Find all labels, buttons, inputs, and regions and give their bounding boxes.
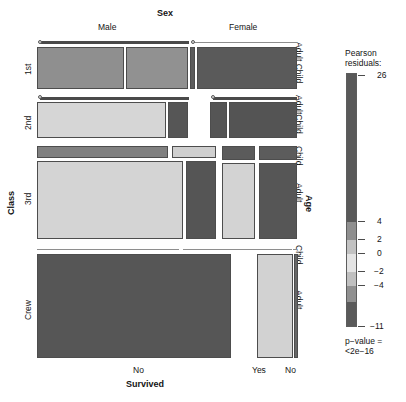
tile-1st-female-adult-yes bbox=[197, 47, 297, 89]
legend-value-26: 26 bbox=[377, 71, 386, 80]
tile-3rd-male-adult-yes bbox=[186, 161, 216, 239]
legend-value-minus4: −4 bbox=[374, 281, 384, 290]
pvalue-line1: p−value = bbox=[345, 336, 382, 346]
tile-crew-male-adult-no bbox=[37, 254, 231, 358]
spine-knob-1st-male bbox=[38, 40, 42, 44]
tile-crew-female-adult-no bbox=[294, 254, 298, 358]
pvalue-line2: <2e−16 bbox=[345, 346, 374, 356]
bottom-axis-label-yes: Yes bbox=[252, 366, 266, 375]
left-axis-label-1st: 1st bbox=[24, 64, 33, 75]
legend-tick-2 bbox=[358, 239, 365, 240]
legend-tick-4 bbox=[358, 221, 365, 222]
spine-rule-crew-tail bbox=[293, 249, 297, 250]
bottom-axis-title: Survived bbox=[126, 380, 164, 389]
spine-knob-2nd-male bbox=[38, 95, 42, 99]
top-axis-label-male: Male bbox=[98, 23, 116, 32]
top-axis-label-female: Female bbox=[229, 23, 257, 32]
top-axis-title: Sex bbox=[157, 9, 173, 18]
left-axis-label-crew: Crew bbox=[24, 300, 33, 320]
tile-2nd-male-adult-no bbox=[37, 102, 166, 138]
left-axis-label-2nd: 2nd bbox=[24, 116, 33, 130]
tile-3rd-female-child-no bbox=[222, 146, 255, 160]
legend-value-4: 4 bbox=[377, 217, 382, 226]
legend-title-line2: residuals: bbox=[345, 58, 381, 68]
mosaic-plot: Sex Male Female Class 1st 2nd 3rd Crew A… bbox=[0, 0, 406, 402]
tile-1st-male-adult-no bbox=[126, 47, 188, 89]
spine-knob-2nd-female bbox=[211, 95, 215, 99]
bottom-axis-label-no-right: No bbox=[285, 366, 296, 375]
legend-tick-0 bbox=[358, 253, 365, 254]
spine-rule-2nd-female bbox=[213, 97, 297, 100]
legend-value-minus2: −2 bbox=[374, 267, 384, 276]
tile-2nd-female-adult-yes bbox=[229, 102, 297, 138]
legend-tick-minus2 bbox=[358, 271, 365, 272]
legend-tick-26 bbox=[358, 75, 365, 76]
spine-rule-1st-male bbox=[40, 41, 189, 44]
tile-crew-female-adult-yes bbox=[257, 254, 293, 358]
tile-3rd-female-adult-yes bbox=[259, 163, 297, 239]
tile-2nd-female-child-yes bbox=[210, 102, 227, 138]
tile-3rd-male-child-yes bbox=[172, 146, 216, 158]
legend-title-line1: Pearson bbox=[345, 48, 377, 58]
spine-rule-crew-female bbox=[183, 249, 292, 250]
legend-tick-minus11 bbox=[358, 326, 365, 327]
legend-color-bar bbox=[346, 73, 357, 327]
right-axis-title: Age bbox=[304, 195, 313, 212]
spine-knob-1st-female bbox=[191, 40, 195, 44]
legend-value-minus11: −11 bbox=[370, 322, 384, 331]
left-axis-title: Class bbox=[7, 191, 16, 215]
tile-3rd-male-adult-no bbox=[37, 161, 183, 239]
legend-tick-minus4 bbox=[358, 285, 365, 286]
spine-rule-2nd-male bbox=[40, 97, 189, 100]
tile-3rd-female-adult-no bbox=[222, 163, 255, 239]
spine-rule-crew-male bbox=[37, 249, 179, 250]
legend-value-0: 0 bbox=[377, 249, 382, 258]
spine-rule-1st-female bbox=[193, 42, 297, 43]
tile-3rd-male-child-no bbox=[37, 146, 168, 158]
tile-3rd-female-child-yes bbox=[259, 146, 297, 160]
legend-value-2: 2 bbox=[377, 235, 382, 244]
tile-1st-female-child-yes bbox=[190, 47, 195, 89]
tile-2nd-male-child-yes bbox=[168, 102, 188, 138]
tile-1st-male-child-no bbox=[37, 47, 124, 89]
bottom-axis-label-no-left: No bbox=[133, 366, 144, 375]
left-axis-label-3rd: 3rd bbox=[24, 193, 33, 205]
